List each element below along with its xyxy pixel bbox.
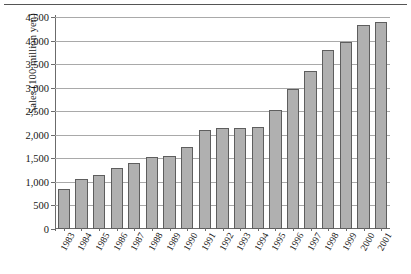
y-axis-tick — [51, 229, 55, 230]
x-axis-tick — [258, 228, 259, 231]
x-axis-tick-label: 1995 — [270, 231, 288, 252]
x-axis-tick — [381, 228, 382, 231]
bar — [375, 22, 387, 229]
y-axis-tick-label: 2,500 — [25, 106, 49, 117]
x-axis-tick-labels: 1983198419851986198719881989199019911992… — [55, 231, 390, 274]
y-axis-tick-label: 1,500 — [25, 153, 49, 164]
bar — [357, 25, 369, 229]
y-axis-tick-label: 1,000 — [25, 176, 49, 187]
x-axis-tick-label: 1996 — [288, 231, 306, 252]
x-axis-tick-label: 1993 — [235, 231, 253, 252]
x-axis-tick-label: 1992 — [217, 231, 235, 252]
x-axis-tick-label: 1991 — [199, 231, 217, 252]
x-axis-tick-label: 1998 — [323, 231, 341, 252]
x-axis-tick — [364, 228, 365, 231]
y-axis-tick-label: 3,000 — [25, 82, 49, 93]
bar-series — [55, 17, 390, 229]
bar — [304, 71, 316, 229]
x-axis-tick — [205, 228, 206, 231]
x-axis-tick-label: 1988 — [146, 231, 164, 252]
bar — [234, 128, 246, 229]
bar — [58, 189, 70, 229]
x-axis-tick — [293, 228, 294, 231]
x-axis-tick-label: 2001 — [376, 231, 394, 252]
x-axis-tick — [311, 228, 312, 231]
bar — [93, 175, 105, 229]
bar-chart-figure: Sales (100 million yen) 05001,0001,5002,… — [0, 0, 411, 274]
x-axis-tick-label: 1986 — [111, 231, 129, 252]
bar — [322, 50, 334, 229]
x-axis-tick-label: 2000 — [358, 231, 376, 252]
x-axis-tick — [328, 228, 329, 231]
bar — [75, 179, 87, 229]
x-axis-tick — [64, 228, 65, 231]
x-axis-tick-label: 1994 — [252, 231, 270, 252]
x-axis-tick-label: 1985 — [94, 231, 112, 252]
bar — [163, 156, 175, 229]
x-axis-tick — [170, 228, 171, 231]
x-axis-tick-label: 1999 — [340, 231, 358, 252]
top-divider-rule — [4, 4, 407, 5]
x-axis-tick — [117, 228, 118, 231]
bar — [128, 163, 140, 229]
x-axis-tick — [99, 228, 100, 231]
x-axis-tick — [81, 228, 82, 231]
x-axis-tick — [275, 228, 276, 231]
y-axis-tick-label: 0 — [44, 224, 49, 235]
bar — [111, 168, 123, 229]
bar — [340, 42, 352, 230]
y-axis-tick-label: 4,500 — [25, 12, 49, 23]
y-axis-tick-label: 2,000 — [25, 129, 49, 140]
x-axis-tick — [152, 228, 153, 231]
x-axis-tick-label: 1997 — [305, 231, 323, 252]
bar — [287, 89, 299, 229]
bar — [252, 127, 264, 229]
bar — [216, 128, 228, 229]
y-axis-tick-label: 4,000 — [25, 35, 49, 46]
y-axis-tick-label: 3,500 — [25, 59, 49, 70]
x-axis-tick — [187, 228, 188, 231]
bar — [199, 130, 211, 229]
x-axis-tick-label: 1987 — [129, 231, 147, 252]
x-axis-tick-label: 1989 — [164, 231, 182, 252]
x-axis-tick-label: 1984 — [76, 231, 94, 252]
x-axis-tick — [134, 228, 135, 231]
y-axis-tick-label: 500 — [33, 200, 49, 211]
x-axis-tick — [346, 228, 347, 231]
x-axis-tick — [223, 228, 224, 231]
bar — [146, 157, 158, 229]
bar — [181, 147, 193, 229]
x-axis-tick-label: 1983 — [58, 231, 76, 252]
x-axis-tick-label: 1990 — [182, 231, 200, 252]
plot-area: 05001,0001,5002,0002,5003,0003,5004,0004… — [55, 17, 390, 229]
x-axis-tick — [240, 228, 241, 231]
bar — [269, 110, 281, 229]
